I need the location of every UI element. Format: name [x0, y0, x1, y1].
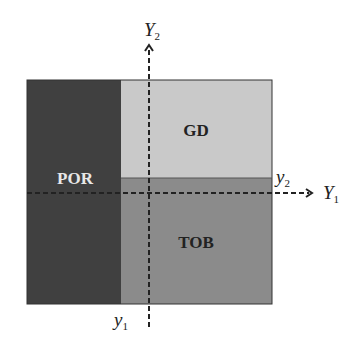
threshold-label-y2: y2: [274, 166, 290, 189]
region-label-gd: GD: [183, 121, 209, 140]
axis-label-y2: Y2: [144, 19, 160, 42]
classification-diagram: POR GD TOB Y2 Y1 y2 y1: [0, 0, 358, 348]
threshold-label-y1: y1: [112, 309, 128, 332]
region-por: [27, 80, 121, 304]
axis-label-y1: Y1: [323, 182, 339, 205]
region-label-tob: TOB: [178, 233, 214, 252]
region-label-por: POR: [57, 169, 94, 188]
